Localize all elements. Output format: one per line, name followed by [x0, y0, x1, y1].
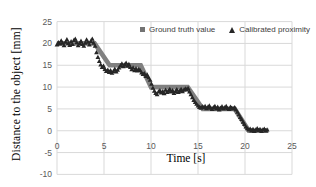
- legend-label-ground-truth: Ground truth value: [149, 25, 215, 34]
- y-tick-label: 15: [43, 60, 53, 70]
- y-tick-label: 10: [43, 82, 53, 92]
- y-tick-label: 25: [43, 17, 53, 27]
- x-tick-label: 5: [102, 141, 107, 151]
- x-tick-label: 10: [146, 141, 156, 151]
- y-tick-label: 20: [43, 38, 53, 48]
- y-tick-label: 0: [47, 126, 52, 136]
- chart-container: 2520151050-5-100510152025 Distance to th…: [0, 0, 316, 187]
- y-tick-label: -10: [40, 169, 53, 179]
- y-axis-title: Distance to the object [mm]: [10, 12, 22, 176]
- legend: Ground truth value Calibrated proximity: [140, 25, 310, 34]
- x-axis-title: Time [s]: [125, 152, 247, 164]
- square-marker-icon: [140, 27, 145, 32]
- triangle-marker-icon: [229, 27, 235, 33]
- legend-item-ground-truth: Ground truth value: [140, 25, 215, 34]
- x-tick-label: 15: [193, 141, 203, 151]
- x-tick-label: 25: [287, 141, 297, 151]
- legend-label-calibrated: Calibrated proximity: [239, 25, 310, 34]
- x-tick-label: 20: [240, 141, 250, 151]
- y-tick-label: -5: [44, 148, 52, 158]
- calibrated-proximity-series: [55, 37, 270, 133]
- y-tick-label: 5: [47, 104, 52, 114]
- legend-item-calibrated: Calibrated proximity: [229, 25, 310, 34]
- x-tick-label: 0: [55, 141, 60, 151]
